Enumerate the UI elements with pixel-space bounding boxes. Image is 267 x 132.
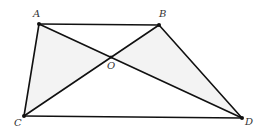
vertex-c: [22, 114, 26, 118]
label-c: C: [14, 117, 22, 128]
vertex-d: [240, 116, 244, 120]
vertex-o: [109, 55, 112, 58]
trapezoid-diagram: A B C D O: [0, 0, 267, 132]
segment-cd: [24, 116, 242, 118]
segment-ab: [39, 24, 159, 25]
shaded-regions: [24, 24, 242, 118]
label-a: A: [32, 8, 40, 19]
label-d: D: [244, 116, 253, 127]
vertex-a: [37, 22, 41, 26]
label-o: O: [107, 60, 115, 71]
shaded-triangle-bod: [111, 25, 242, 118]
vertex-b: [157, 23, 161, 27]
label-b: B: [158, 8, 166, 19]
